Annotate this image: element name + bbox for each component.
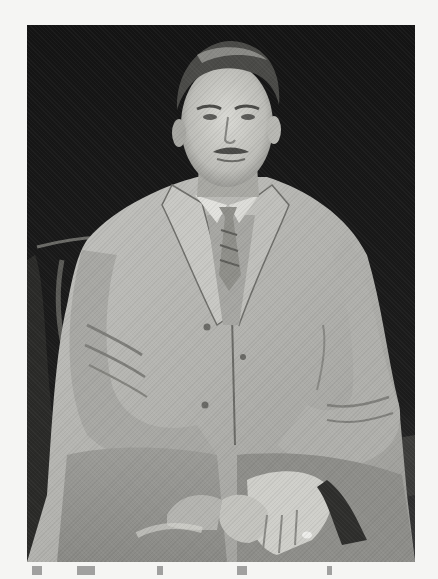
caption-fragment	[157, 566, 163, 575]
portrait-illustration	[27, 25, 415, 562]
caption-fragment	[77, 566, 95, 575]
portrait-photo	[27, 25, 415, 562]
scanned-page	[0, 0, 438, 579]
caption-fragment	[327, 566, 332, 575]
caption-fragment	[237, 566, 247, 575]
caption-fragment	[32, 566, 42, 575]
cropped-caption-fragments	[27, 566, 415, 576]
